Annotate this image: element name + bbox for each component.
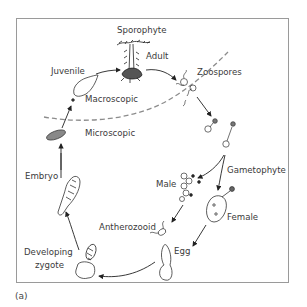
zoospores-icon — [176, 70, 196, 106]
arrow-zoospores-down — [197, 97, 211, 116]
egg-icon — [160, 245, 172, 281]
male-gametophyte-icon — [180, 173, 201, 202]
microscopic-sporophyte-icon — [45, 128, 67, 142]
label-juvenile: Juvenile — [51, 67, 85, 76]
settled-spores-icon — [205, 119, 236, 148]
arrow-egg-to-zygote — [99, 262, 155, 277]
developing-zygote-icon — [76, 243, 98, 279]
label-antherozooid: Antherozooid — [99, 223, 156, 232]
arrow-male-to-antherozooid — [172, 205, 183, 222]
embryo-icon — [58, 176, 80, 215]
macro-micro-boundary — [44, 52, 228, 120]
label-zoospores: Zoospores — [197, 68, 242, 77]
label-male: Male — [156, 180, 176, 189]
label-zygote: zygote — [35, 261, 64, 270]
panel-label: (a) — [15, 291, 28, 301]
arrow-juvenile-to-adult — [96, 70, 120, 74]
label-microscopic: Microscopic — [85, 129, 135, 138]
arrow-micro-to-juvenile — [62, 106, 71, 128]
label-sporophyte: Sporophyte — [117, 26, 166, 35]
label-egg: Egg — [174, 247, 190, 256]
label-female: Female — [227, 213, 258, 222]
label-gametophyte: Gametophyte — [227, 166, 286, 175]
label-embryo: Embryo — [25, 172, 58, 181]
label-developing: Developing — [24, 248, 73, 257]
label-adult: Adult — [146, 52, 168, 61]
adult-sporophyte-icon — [117, 40, 150, 83]
arrow-zygote-to-embryo — [66, 212, 79, 250]
arrow-female-to-egg — [193, 225, 206, 246]
arrow-to-male — [198, 155, 224, 178]
arrow-adult-to-zoospores — [146, 70, 176, 80]
label-macroscopic: Macroscopic — [85, 95, 138, 104]
arrow-to-female — [218, 155, 225, 190]
